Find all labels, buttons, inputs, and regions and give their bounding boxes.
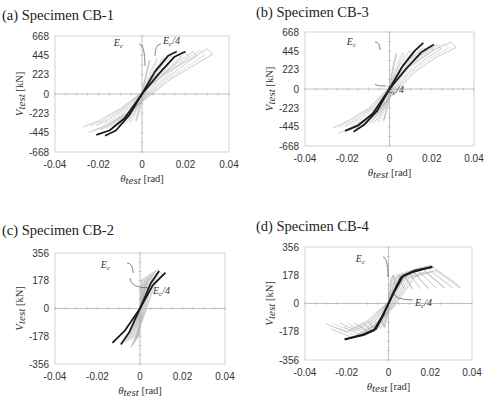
annotation-ec-quarter: Ec/4 <box>414 297 432 310</box>
x-tick-label: -0.02 <box>86 371 109 382</box>
annotation-leader <box>375 84 386 86</box>
annotation-ec-quarter: Ec/4 <box>162 35 180 48</box>
x-tick-label: 0.04 <box>215 371 235 382</box>
y-tick-label: 223 <box>282 64 299 75</box>
model-curve-ec <box>96 52 177 135</box>
x-tick-label: 0 <box>387 153 393 164</box>
hysteresis-loop <box>96 52 197 130</box>
annotation-ec-quarter: Ec/4 <box>152 285 170 298</box>
y-tick-label: -223 <box>29 108 49 119</box>
annotation-ec: Ec <box>113 37 124 50</box>
annotation-leader <box>155 44 161 56</box>
x-tick-label: 0 <box>137 371 143 382</box>
y-tick-label: 178 <box>32 275 49 286</box>
y-tick-label: -445 <box>279 121 299 132</box>
annotation-ec: Ec <box>100 259 111 272</box>
hysteresis-loop <box>339 43 449 132</box>
annotation-leader <box>383 257 388 277</box>
y-tick-label: 445 <box>32 50 49 61</box>
y-tick-label: -445 <box>29 127 49 138</box>
y-tick-label: 178 <box>282 270 299 281</box>
x-tick-label: 0.02 <box>422 153 442 164</box>
y-tick-label: 356 <box>282 242 299 253</box>
y-tick-label: -356 <box>279 355 299 366</box>
y-tick-label: -668 <box>279 141 299 152</box>
x-tick-label: 0.02 <box>421 367 441 378</box>
x-tick-label: 0.04 <box>219 159 239 170</box>
y-tick-label: 356 <box>32 248 49 259</box>
chart-panel-c: 3561780-178-356-0.04-0.0200.020.04θtest … <box>13 248 235 399</box>
y-tick-label: -178 <box>29 331 49 342</box>
x-axis-label: θtest [rad] <box>120 172 164 186</box>
x-tick-label: -0.04 <box>44 159 67 170</box>
chart-panel-a: 6684452230-223-445-668-0.04-0.0200.020.0… <box>13 31 239 187</box>
x-tick-label: 0 <box>386 367 392 378</box>
annotation-ec: Ec <box>346 36 357 49</box>
x-axis-label: θtest [rad] <box>368 166 412 180</box>
chart-panel-b: 6684452230-223-445-668-0.04-0.0200.020.0… <box>263 27 484 181</box>
y-axis-label: Vtest [kN] <box>263 281 277 325</box>
annotation-ec: Ec <box>355 253 366 266</box>
charts-canvas: 6684452230-223-445-668-0.04-0.0200.020.0… <box>0 0 495 414</box>
y-tick-label: 445 <box>282 46 299 57</box>
x-tick-label: -0.04 <box>294 153 317 164</box>
x-tick-label: -0.04 <box>294 367 317 378</box>
y-axis-label: Vtest [kN] <box>263 67 277 111</box>
x-tick-label: 0.04 <box>462 367 482 378</box>
y-tick-label: 668 <box>32 31 49 42</box>
y-axis-label: Vtest [kN] <box>13 286 27 330</box>
x-axis-label: θtest [rad] <box>367 380 411 394</box>
x-tick-label: 0.02 <box>173 371 193 382</box>
y-tick-label: 223 <box>32 69 49 80</box>
x-tick-label: -0.02 <box>87 159 110 170</box>
annotation-leader <box>127 263 133 273</box>
x-tick-label: 0.02 <box>176 159 196 170</box>
x-tick-label: -0.04 <box>44 371 67 382</box>
y-tick-label: -178 <box>279 326 299 337</box>
y-axis-label: Vtest [kN] <box>13 72 27 116</box>
y-tick-label: 0 <box>43 303 49 314</box>
x-tick-label: -0.02 <box>336 153 359 164</box>
chart-panel-d: 3561780-178-356-0.04-0.0200.020.04θtest … <box>263 242 482 395</box>
annotation-leader <box>375 42 380 50</box>
x-tick-label: -0.02 <box>335 367 358 378</box>
x-axis-label: θtest [rad] <box>118 384 162 398</box>
x-tick-label: 0.04 <box>464 153 484 164</box>
y-tick-label: -668 <box>29 147 49 158</box>
y-tick-label: -223 <box>279 103 299 114</box>
y-tick-label: -356 <box>29 359 49 370</box>
y-tick-label: 0 <box>293 84 299 95</box>
y-tick-label: 0 <box>43 89 49 100</box>
y-tick-label: 0 <box>293 298 299 309</box>
y-tick-label: 668 <box>282 27 299 38</box>
x-tick-label: 0 <box>139 159 145 170</box>
